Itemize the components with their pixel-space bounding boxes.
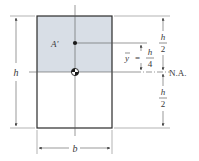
- label-ybar-equals: =: [135, 53, 140, 63]
- centroid-symbol-icon: [71, 68, 78, 75]
- label-width-b: b: [73, 143, 78, 154]
- label-neutral-axis: N.A.: [169, 68, 187, 78]
- label-half-top-denominator: 2: [161, 44, 166, 54]
- label-half-bottom-denominator: 2: [161, 99, 166, 109]
- label-height-h: h: [14, 67, 19, 78]
- cross-section-diagram: h h 2 h 2 N.A. y = h 4 A' b: [0, 0, 199, 161]
- label-ybar-numerator: h: [148, 47, 153, 57]
- label-ybar: y: [124, 53, 129, 63]
- area-centroid-dot: [73, 41, 77, 45]
- label-ybar-denominator: 4: [148, 59, 153, 69]
- label-half-top-numerator: h: [161, 32, 166, 42]
- label-area-a-prime: A': [50, 39, 59, 49]
- label-half-bottom-numerator: h: [161, 87, 166, 97]
